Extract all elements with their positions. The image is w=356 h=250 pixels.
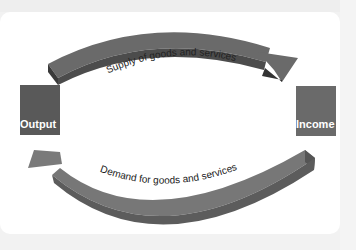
income-label: Income [296,118,335,130]
demand-arrow [28,150,315,224]
output-label: Output [20,118,56,130]
demand-label: Demand for goods and services [99,161,238,186]
supply-arrow [48,32,298,85]
